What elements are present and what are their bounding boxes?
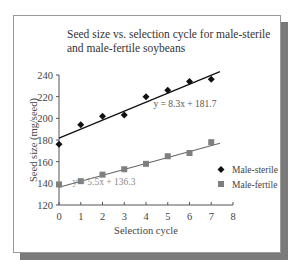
x-tick-label: 2 [100,211,105,222]
y-tick-label: 120 [37,200,53,211]
y-tick-label: 180 [37,135,53,146]
equation-male-fertile: y = 5.5x + 136.3 [73,177,136,187]
y-tick-label: 160 [37,157,53,168]
x-tick-label: 0 [56,211,61,222]
data-point-male-fertile [56,181,62,187]
data-point-male-sterile [186,78,193,85]
x-tick-label: 8 [230,211,235,222]
scatter-chart: 120140160180200220240012345678Selection … [0,0,296,265]
y-tick-label: 200 [37,113,53,124]
x-axis-label: Selection cycle [114,225,178,236]
y-axis-label: Seed size (mg/seed) [28,98,40,182]
y-tick-label: 240 [37,70,53,81]
legend-marker-male-sterile [218,166,225,173]
data-point-male-fertile [208,139,214,145]
data-point-male-sterile [77,121,84,128]
x-tick-label: 1 [78,211,83,222]
data-point-male-sterile [56,141,63,148]
legend-marker-male-fertile [218,181,224,187]
x-tick-label: 4 [143,211,149,222]
x-tick-label: 6 [187,211,192,222]
x-tick-label: 5 [165,211,170,222]
data-point-male-fertile [121,166,127,172]
data-point-male-fertile [187,150,193,156]
data-point-male-fertile [143,161,149,167]
x-tick-label: 3 [122,211,127,222]
y-tick-label: 220 [37,92,53,103]
legend-label-male-sterile: Male-sterile [232,165,278,175]
x-tick-label: 7 [209,211,214,222]
data-point-male-sterile [143,93,150,100]
y-tick-label: 140 [37,178,53,189]
legend-label-male-fertile: Male-fertile [232,180,277,190]
data-point-male-fertile [165,153,171,159]
equation-male-sterile: y = 8.3x + 181.7 [154,99,217,109]
